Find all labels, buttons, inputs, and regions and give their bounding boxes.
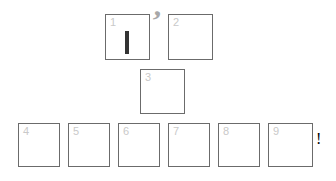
text-caret-icon — [125, 31, 129, 54]
slot-box-label: 8 — [223, 125, 229, 138]
slot-box-3[interactable]: 3 — [140, 69, 185, 114]
slot-box-label: 2 — [173, 16, 179, 29]
slot-box-label: 4 — [23, 125, 29, 138]
slot-box-label: 3 — [145, 71, 151, 84]
slot-box-9[interactable]: 9 — [268, 123, 313, 167]
slot-box-4[interactable]: 4 — [18, 123, 60, 167]
exclamation-mark: ! — [316, 131, 321, 147]
diagram-canvas: 123456789’! — [0, 0, 336, 181]
slot-box-1[interactable]: 1 — [105, 14, 150, 60]
slot-box-2[interactable]: 2 — [168, 14, 213, 60]
slot-box-label: 1 — [110, 16, 116, 29]
comma-mark: ’ — [148, 5, 163, 36]
slot-box-label: 9 — [273, 125, 279, 138]
slot-box-5[interactable]: 5 — [68, 123, 110, 167]
slot-box-label: 6 — [123, 125, 129, 138]
slot-box-label: 7 — [173, 125, 179, 138]
slot-box-8[interactable]: 8 — [218, 123, 260, 167]
slot-box-label: 5 — [73, 125, 79, 138]
slot-box-7[interactable]: 7 — [168, 123, 210, 167]
slot-box-6[interactable]: 6 — [118, 123, 160, 167]
